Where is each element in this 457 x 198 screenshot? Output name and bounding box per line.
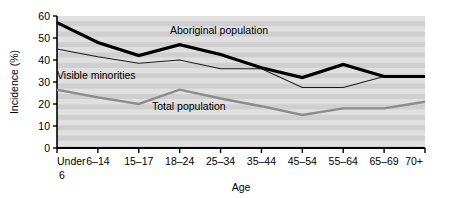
y-axis-title: Incidence (%) <box>8 50 20 114</box>
x-tick-label: 65–69 <box>370 155 399 167</box>
x-axis-title: Age <box>232 181 251 193</box>
y-tick-label: 10 <box>38 120 50 132</box>
x-tick-label: 6–14 <box>86 155 110 167</box>
background-band <box>57 110 425 115</box>
background-band <box>57 37 425 42</box>
background-band <box>57 115 425 120</box>
background-band <box>57 125 425 130</box>
x-tick-label-line2: 6 <box>59 169 65 181</box>
x-tick-label: 55–64 <box>329 155 358 167</box>
background-band <box>57 89 425 94</box>
y-tick-label: 20 <box>38 98 50 110</box>
background-band <box>57 120 425 125</box>
x-tick-label: 25–34 <box>206 155 235 167</box>
series-label: Visible minorities <box>57 69 136 81</box>
chart-figure: 0102030405060 Under66–1415–1718–2425–343… <box>0 0 457 198</box>
background-band <box>57 94 425 99</box>
series-label: Total population <box>152 100 226 112</box>
x-axis-ticks: Under66–1415–1718–2425–3435–4445–5455–64… <box>57 148 425 181</box>
x-tick-label: 35–44 <box>247 155 276 167</box>
x-tick-label: 15–17 <box>124 155 153 167</box>
background-band <box>57 52 425 57</box>
y-axis-ticks: 0102030405060 <box>38 10 57 154</box>
y-tick-label: 60 <box>38 10 50 22</box>
background-band <box>57 136 425 141</box>
x-tick-label: Under <box>57 155 86 167</box>
x-tick-label: 70+ <box>405 155 423 167</box>
background-band <box>57 16 425 21</box>
y-tick-label: 40 <box>38 54 50 66</box>
x-tick-label: 45–54 <box>288 155 317 167</box>
incidence-by-age-line-chart: 0102030405060 Under66–1415–1718–2425–343… <box>0 0 457 198</box>
background-band <box>57 141 425 146</box>
y-tick-label: 0 <box>44 142 50 154</box>
x-tick-label: 18–24 <box>165 155 194 167</box>
y-tick-label: 50 <box>38 32 50 44</box>
background-band <box>57 63 425 68</box>
series-label: Aboriginal population <box>170 24 268 36</box>
background-band <box>57 130 425 135</box>
background-band <box>57 84 425 89</box>
y-tick-label: 30 <box>38 76 50 88</box>
